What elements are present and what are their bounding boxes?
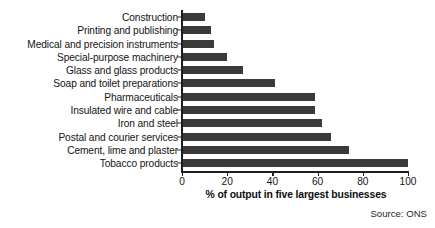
bar <box>182 40 214 48</box>
chart-row: Iron and steel <box>0 117 435 130</box>
bar <box>182 133 331 141</box>
category-label: Medical and precision instruments <box>27 38 178 49</box>
chart-row: Postal and courier services <box>0 130 435 143</box>
bar <box>182 93 315 101</box>
x-axis-tick-label: 40 <box>267 176 278 188</box>
x-axis-tick-label: 100 <box>400 176 417 188</box>
x-axis-line <box>181 171 409 173</box>
bar <box>182 146 349 154</box>
chart-row: Medical and precision instruments <box>0 37 435 50</box>
category-label: Insulated wire and cable <box>71 105 178 116</box>
x-axis-tick-label: 80 <box>357 176 368 188</box>
bar <box>182 26 211 34</box>
category-label: Iron and steel <box>118 118 178 129</box>
y-axis-line <box>181 10 183 172</box>
bar <box>182 119 322 127</box>
x-axis-title: % of output in five largest businesses <box>182 189 410 200</box>
bar <box>182 159 408 167</box>
category-label: Printing and publishing <box>77 25 178 36</box>
chart-row: Soap and toilet preparations <box>0 77 435 90</box>
category-label: Soap and toilet preparations <box>53 78 178 89</box>
bar <box>182 13 205 21</box>
chart-row: Construction <box>0 10 435 23</box>
bar <box>182 79 275 87</box>
chart-row: Special-purpose machinery <box>0 50 435 63</box>
x-axis-tick-label: 60 <box>312 176 323 188</box>
chart-row: Insulated wire and cable <box>0 103 435 116</box>
category-label: Postal and courier services <box>58 131 178 142</box>
x-axis-tick-label: 0 <box>179 176 185 188</box>
bar <box>182 66 243 74</box>
category-label: Glass and glass products <box>66 65 178 76</box>
category-label: Tobacco products <box>100 158 178 169</box>
chart-row: Printing and publishing <box>0 24 435 37</box>
chart-row: Pharmaceuticals <box>0 90 435 103</box>
chart-row: Cement, lime and plaster <box>0 143 435 156</box>
plot-area: ConstructionPrinting and publishingMedic… <box>0 0 435 175</box>
chart-row: Tobacco products <box>0 157 435 170</box>
category-label: Cement, lime and plaster <box>67 144 178 155</box>
category-label: Pharmaceuticals <box>104 91 178 102</box>
bar <box>182 106 315 114</box>
x-axis-tick-label: 20 <box>222 176 233 188</box>
category-label: Construction <box>122 11 178 22</box>
bar-chart-figure: ConstructionPrinting and publishingMedic… <box>0 0 435 228</box>
category-label: Special-purpose machinery <box>57 51 178 62</box>
bar <box>182 53 227 61</box>
source-note: Source: ONS <box>370 208 427 219</box>
chart-row: Glass and glass products <box>0 64 435 77</box>
